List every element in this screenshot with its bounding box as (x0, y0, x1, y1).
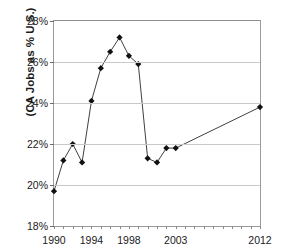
chart-title: California Share of U.S. Jobs (52, 0, 230, 3)
data-point-marker (257, 104, 263, 110)
data-point-marker (173, 145, 179, 151)
x-axis-tick-mark (129, 226, 130, 229)
x-axis-tick-label: 2012 (248, 234, 271, 246)
gridline-horizontal (54, 103, 260, 104)
gridline-horizontal (54, 62, 260, 63)
y-axis-tick-label: 26% (27, 56, 48, 68)
x-axis-tick-mark (166, 226, 167, 229)
x-axis-tick-mark (157, 226, 158, 229)
x-axis-tick-mark (101, 226, 102, 229)
x-axis-tick-mark (241, 226, 242, 229)
y-axis-tick-label: 28% (27, 15, 48, 27)
data-series-line (54, 21, 262, 228)
x-axis-tick-label: 1998 (117, 234, 140, 246)
plot-area: 18%20%22%24%26%28%19901994199820032012 (53, 20, 261, 227)
chart-title-strip: California Share of U.S. Jobs (0, 0, 282, 9)
x-axis-tick-mark (148, 226, 149, 229)
data-point-marker (51, 188, 57, 194)
x-axis-tick-mark (194, 226, 195, 229)
y-axis-tick-mark (50, 185, 54, 186)
x-axis-tick-mark (63, 226, 64, 229)
y-axis-tick-mark (50, 103, 54, 104)
x-axis-tick-label: 1994 (80, 234, 103, 246)
x-axis-tick-mark (54, 226, 55, 229)
data-point-marker (145, 155, 151, 161)
x-axis-tick-mark (260, 226, 261, 229)
gridline-horizontal (54, 144, 260, 145)
data-point-marker (116, 34, 122, 40)
x-axis-tick-mark (138, 226, 139, 229)
data-point-marker (154, 159, 160, 165)
x-axis-tick-mark (120, 226, 121, 229)
data-point-marker (79, 159, 85, 165)
x-axis-tick-mark (204, 226, 205, 229)
x-axis-tick-mark (223, 226, 224, 229)
data-point-marker (107, 49, 113, 55)
x-axis-tick-mark (91, 226, 92, 229)
data-point-marker (60, 157, 66, 163)
y-axis-tick-mark (50, 21, 54, 22)
x-axis-tick-mark (176, 226, 177, 229)
y-axis-tick-label: 20% (27, 179, 48, 191)
x-axis-tick-mark (232, 226, 233, 229)
x-axis-tick-mark (213, 226, 214, 229)
x-axis-tick-mark (73, 226, 74, 229)
series-polyline (54, 37, 260, 191)
y-axis-tick-label: 18% (27, 220, 48, 232)
y-axis-tick-mark (50, 144, 54, 145)
gridline-horizontal (54, 185, 260, 186)
data-point-marker (98, 65, 104, 71)
y-axis-tick-label: 24% (27, 97, 48, 109)
x-axis-tick-mark (82, 226, 83, 229)
chart-container: California Share of U.S. Jobs (CA Jobs a… (0, 0, 282, 249)
x-axis-tick-label: 1990 (42, 234, 65, 246)
x-axis-tick-mark (185, 226, 186, 229)
y-axis-tick-label: 22% (27, 138, 48, 150)
x-axis-tick-mark (110, 226, 111, 229)
data-point-marker (163, 145, 169, 151)
x-axis-tick-mark (251, 226, 252, 229)
y-axis-tick-mark (50, 62, 54, 63)
x-axis-tick-label: 2003 (164, 234, 187, 246)
